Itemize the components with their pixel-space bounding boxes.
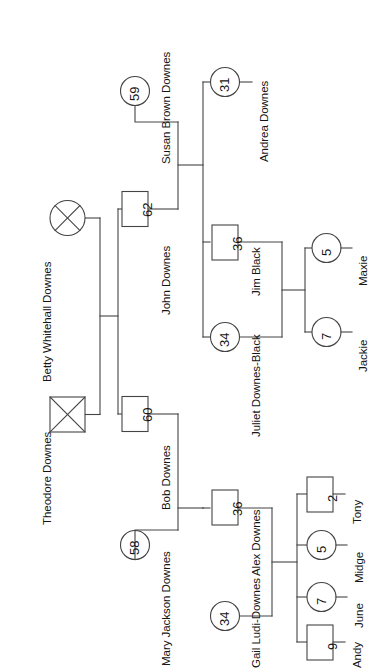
label-andy: Andy	[351, 642, 363, 668]
label-andrea: Andrea Downes	[258, 81, 270, 162]
label-maxie: Maxie	[357, 256, 369, 286]
label-alex: Alex Downes	[250, 509, 262, 576]
age-jackie: 7	[319, 333, 334, 340]
age-gail: 34	[217, 612, 232, 626]
age-jim: 36	[230, 237, 245, 251]
age-tony: 2	[325, 495, 340, 502]
label-betty: Betty Whitehall Downes	[41, 262, 53, 382]
label-susan: Susan Brown Downes	[160, 52, 172, 164]
node-theodore-shape	[50, 397, 85, 432]
genogram-canvas: 62 60 59 58 31 36 34 36 34 5 7 2 5 7 9 B…	[0, 0, 391, 670]
label-tony: Tony	[351, 500, 363, 524]
label-jim: Jim Black	[250, 247, 262, 296]
label-gail: Gail Ludi-Downes	[250, 578, 262, 668]
age-alex: 36	[230, 502, 245, 516]
age-susan: 59	[127, 87, 142, 101]
label-theodore: Theodore Downes	[41, 432, 53, 525]
age-andy: 9	[325, 643, 340, 650]
label-bob: Bob Downes	[160, 445, 172, 510]
label-june: June	[353, 603, 365, 628]
age-midge: 5	[314, 546, 329, 553]
age-andrea: 31	[217, 78, 232, 92]
label-john: John Downes	[160, 246, 172, 315]
age-maxie: 5	[319, 249, 334, 256]
age-june: 7	[314, 598, 329, 605]
label-midge: Midge	[353, 552, 365, 583]
age-juliet: 34	[217, 333, 232, 347]
label-juliet: Juliet Downes-Black	[250, 334, 262, 437]
label-jackie: Jackie	[357, 340, 369, 372]
label-mary: Mary Jackson Downes	[160, 551, 172, 666]
node-betty-shape	[50, 201, 85, 236]
age-john: 62	[140, 203, 155, 217]
age-bob: 60	[140, 408, 155, 422]
age-mary: 58	[127, 541, 142, 555]
